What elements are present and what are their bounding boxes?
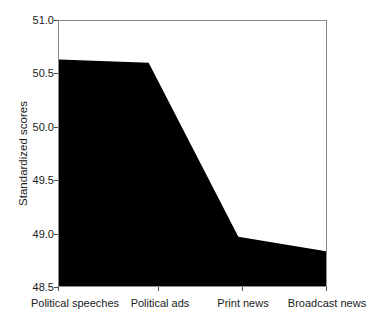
y-tick-label: 49.0 <box>20 229 54 240</box>
x-tick-mark <box>58 287 59 291</box>
x-tick-mark <box>242 287 243 291</box>
y-tick-label: 49.5 <box>20 175 54 186</box>
x-tick-label: Broadcast news <box>288 296 366 310</box>
y-tick-label: 48.5 <box>20 282 54 293</box>
area-series-polygon <box>59 59 327 287</box>
y-tick-label: 51.0 <box>20 15 54 26</box>
y-axis-tick-labels: 51.0 50.5 50.0 49.5 49.0 48.5 <box>20 0 54 320</box>
x-tick-label: Political ads <box>131 296 190 310</box>
area-series-svg <box>59 21 327 287</box>
x-axis-tick-labels: Political speeches Political ads Print n… <box>0 296 371 312</box>
x-tick-mark <box>326 287 327 291</box>
x-tick-mark <box>158 287 159 291</box>
y-tick-label: 50.5 <box>20 68 54 79</box>
y-tick-label: 50.0 <box>20 122 54 133</box>
chart-container: Standardized scores 51.0 50.5 50.0 49.5 … <box>0 0 371 320</box>
x-tick-label: Political speeches <box>31 296 119 310</box>
x-tick-label: Print news <box>217 296 268 310</box>
plot-area <box>58 20 327 287</box>
